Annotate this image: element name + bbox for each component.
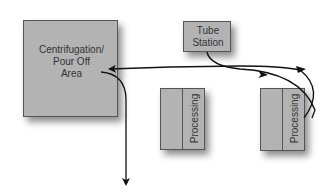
arrows-layer: [0, 0, 336, 193]
arrowhead-right-top: [296, 66, 306, 73]
arrow-tube-to-processing: [207, 52, 315, 118]
arrow-return-to-centrifugation: [110, 66, 314, 118]
arrow-down-exit: [101, 72, 126, 184]
